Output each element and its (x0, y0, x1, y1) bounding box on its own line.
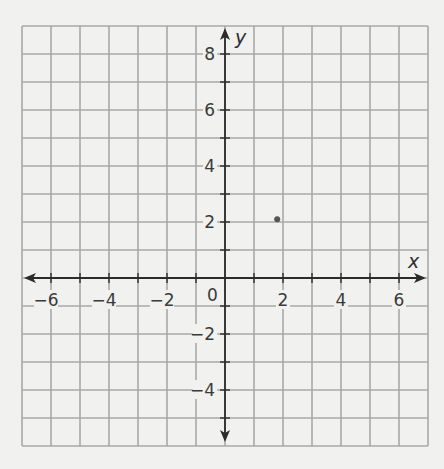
y-tick-label: 2 (204, 212, 215, 232)
y-tick-label: −4 (190, 380, 215, 400)
x-tick-label: −6 (33, 290, 58, 310)
x-tick-label: −4 (91, 290, 116, 310)
y-tick-label: −2 (190, 324, 215, 344)
y-tick-label: 8 (204, 44, 215, 64)
data-point (274, 216, 280, 222)
coordinate-plane: −6−4−22468642−2−4 x y 0 (0, 0, 444, 469)
x-tick-label: 4 (336, 290, 347, 310)
axes (24, 28, 426, 442)
y-axis-label: y (234, 26, 247, 48)
x-tick-label: 2 (278, 290, 289, 310)
x-tick-label: 6 (394, 290, 405, 310)
data-points (274, 216, 280, 222)
origin-label: 0 (207, 285, 218, 305)
x-axis-label: x (407, 250, 420, 272)
y-tick-label: 4 (204, 156, 215, 176)
x-tick-label: −2 (149, 290, 174, 310)
y-tick-label: 6 (204, 100, 215, 120)
